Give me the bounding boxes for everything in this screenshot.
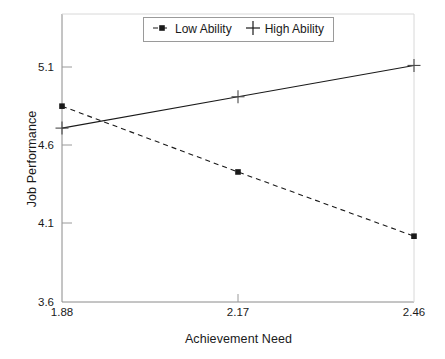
series-low-ability [59, 103, 417, 239]
data-point-marker [56, 122, 69, 135]
legend-label-low-ability: Low Ability [175, 23, 232, 35]
data-point-marker [59, 103, 65, 109]
legend-item-low-ability: Low Ability [153, 22, 232, 36]
legend-item-high-ability: High Ability [245, 21, 324, 37]
dashed-square-marker-icon [153, 22, 171, 36]
plot-area [0, 0, 445, 359]
axis-frame [62, 14, 414, 302]
chart-legend: Low Ability High Ability [143, 17, 334, 42]
plus-marker-icon [245, 21, 261, 37]
chart-container: Job Performance 5.1 4.6 4.1 3.6 1.88 2.1… [0, 0, 445, 359]
series-high-ability [56, 59, 421, 135]
data-point-marker [411, 233, 417, 239]
data-point-marker [408, 59, 421, 72]
data-point-marker [232, 90, 245, 103]
x-axis-title: Achievement Need [62, 332, 415, 346]
data-point-marker [235, 169, 241, 175]
legend-label-high-ability: High Ability [265, 23, 324, 35]
y-tick-marks [62, 67, 72, 223]
